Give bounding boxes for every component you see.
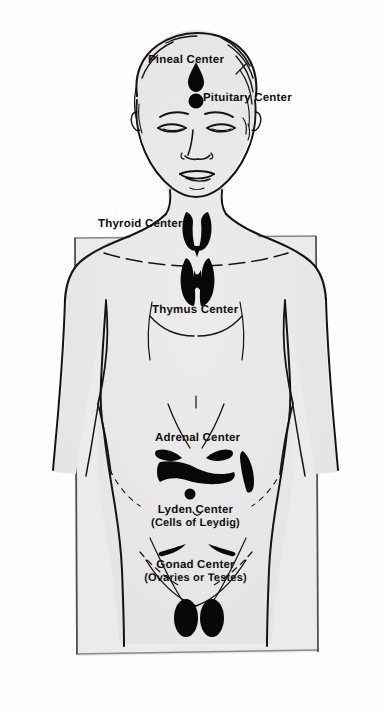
label-pineal-center: Pineal Center xyxy=(148,54,224,67)
label-lyden-center-sub: (Cells of Leydig) xyxy=(118,517,273,530)
label-gonad-center: Gonad Center xyxy=(118,559,273,572)
label-lyden-center: Lyden Center xyxy=(118,504,273,517)
label-lyden-center-group: Lyden Center (Cells of Leydig) xyxy=(118,504,273,530)
diagram-page: Pineal Center Pituitary Center Thyroid C… xyxy=(0,0,383,708)
gonad-gland-left xyxy=(174,599,198,637)
label-thyroid-center: Thyroid Center xyxy=(98,218,183,231)
label-gonad-center-sub: (Ovaries or Testes) xyxy=(118,572,273,585)
label-gonad-center-group: Gonad Center (Ovaries or Testes) xyxy=(118,559,273,585)
label-pituitary-center: Pituitary Center xyxy=(203,92,292,105)
anatomical-figure xyxy=(0,0,383,708)
lyden-gland-mark xyxy=(185,489,196,500)
gonad-gland-right xyxy=(200,599,224,637)
label-thymus-center: Thymus Center xyxy=(152,304,238,317)
label-adrenal-center: Adrenal Center xyxy=(155,432,240,445)
pituitary-gland-mark xyxy=(189,94,204,109)
